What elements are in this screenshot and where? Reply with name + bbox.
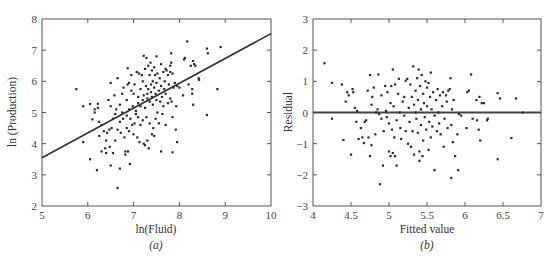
x-tick-label: 4.5 [344,209,358,221]
data-point [342,139,344,141]
data-point [454,155,456,157]
data-points-b [323,62,524,185]
data-point [139,124,141,126]
data-point [171,100,173,102]
data-point [435,99,437,101]
y-tick-label: 5 [32,107,38,119]
data-point [192,104,194,106]
data-point [149,122,151,124]
data-point [82,105,84,107]
data-point [190,65,192,67]
data-point [449,77,451,79]
data-point [468,90,470,92]
data-point [142,99,144,101]
data-point [460,115,462,117]
data-point [382,164,384,166]
data-point [110,82,112,84]
data-point [442,91,444,93]
data-point [441,105,443,107]
data-point [419,85,421,87]
data-point [170,62,172,64]
data-point [137,116,139,118]
data-point [369,155,371,157]
data-point [171,72,173,74]
data-point [446,100,448,102]
data-point [421,74,423,76]
data-point [119,121,121,123]
data-point [206,48,208,50]
data-point [445,94,447,96]
x-tick-label: 6.5 [496,209,510,221]
data-point [161,96,163,98]
data-point [124,153,126,155]
data-point [420,124,422,126]
data-point [139,88,141,90]
data-point [475,99,477,101]
data-point [122,86,124,88]
y-tick-label: 6 [32,75,38,87]
data-point [392,105,394,107]
data-point [411,130,413,132]
data-point [403,96,405,98]
data-point [162,105,164,107]
data-point [350,153,352,155]
data-point [169,97,171,99]
data-point [155,55,157,57]
data-point [144,144,146,146]
data-point [497,158,499,160]
data-point [135,110,137,112]
y-tick-label: 8 [32,13,38,25]
data-point [165,69,167,71]
data-point [370,144,372,146]
data-point [167,74,169,76]
data-point [133,133,135,135]
data-point [379,183,381,185]
data-point [415,90,417,92]
data-point [115,108,117,110]
data-point [105,152,107,154]
data-point [137,102,139,104]
data-point [192,60,194,62]
data-point [345,100,347,102]
data-point [82,141,84,143]
data-point [390,85,392,87]
y-tick-label: 2 [303,44,309,56]
data-point [378,113,380,115]
data-point [451,108,453,110]
data-point [116,129,118,131]
data-point [406,78,408,80]
data-point [126,115,128,117]
data-point [126,99,128,101]
data-point [371,96,373,98]
data-point [383,130,385,132]
data-point [370,104,372,106]
data-point [133,122,135,124]
data-point [149,100,151,102]
data-point [128,130,130,132]
data-point [470,73,472,75]
x-tick-label: 8 [177,209,183,221]
data-point [434,115,436,117]
data-point [171,116,173,118]
y-tick-label: −2 [296,169,308,181]
data-point [434,169,436,171]
data-point [361,136,363,138]
data-point [158,90,160,92]
panel-caption-b: (b) [420,239,434,252]
data-point [377,73,379,75]
data-point [426,86,428,88]
data-point [355,121,357,123]
data-point [430,108,432,110]
data-point [499,97,501,99]
data-point [417,99,419,101]
data-point [487,118,489,120]
data-point [160,63,162,65]
x-tick-label: 4 [310,209,316,221]
data-point [105,139,107,141]
data-point [515,97,517,99]
data-point [403,115,405,117]
data-point [410,146,412,148]
data-point [478,96,480,98]
axis-ticks-a: 56789102345678 [32,13,278,221]
y-tick-label: 0 [303,107,309,119]
